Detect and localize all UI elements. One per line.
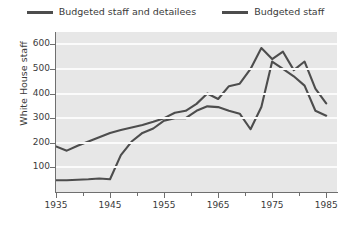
x-axis-line bbox=[55, 192, 338, 193]
y-tick-label: 200 bbox=[4, 138, 50, 147]
x-tick-label: 1935 bbox=[36, 200, 76, 210]
legend-label: Budgeted staff and detailees bbox=[59, 7, 196, 17]
x-tick-minor bbox=[191, 193, 192, 196]
y-tick bbox=[50, 94, 55, 95]
x-tick-label: 1945 bbox=[90, 200, 130, 210]
y-tick-label: 600 bbox=[4, 39, 50, 48]
chart-legend: Budgeted staff and detailees Budgeted st… bbox=[0, 4, 351, 20]
y-tick bbox=[50, 143, 55, 144]
y-tick-label: 300 bbox=[4, 113, 50, 122]
legend-item-budgeted-staff: Budgeted staff bbox=[222, 7, 324, 17]
gridline bbox=[56, 68, 337, 70]
gridline bbox=[56, 166, 337, 168]
gridline bbox=[56, 117, 337, 119]
x-tick-label: 1985 bbox=[306, 200, 346, 210]
chart-root: Budgeted staff and detailees Budgeted st… bbox=[0, 0, 351, 226]
y-tick-label: 400 bbox=[4, 89, 50, 98]
x-tick bbox=[164, 193, 165, 198]
gridline bbox=[56, 93, 337, 95]
x-tick-label: 1975 bbox=[252, 200, 292, 210]
x-tick bbox=[326, 193, 327, 198]
y-axis-line bbox=[55, 32, 56, 193]
y-tick bbox=[50, 69, 55, 70]
series-line-budgeted-staff-and-detailees bbox=[56, 48, 326, 151]
series-line-budgeted-staff bbox=[56, 62, 326, 181]
x-tick-label: 1965 bbox=[198, 200, 238, 210]
y-tick-label: 100 bbox=[4, 162, 50, 171]
x-tick bbox=[272, 193, 273, 198]
x-tick bbox=[110, 193, 111, 198]
x-tick bbox=[56, 193, 57, 198]
gridline bbox=[56, 43, 337, 45]
legend-label: Budgeted staff bbox=[254, 7, 324, 17]
y-tick bbox=[50, 167, 55, 168]
legend-swatch-icon bbox=[27, 11, 53, 14]
x-tick-minor bbox=[245, 193, 246, 196]
legend-swatch-icon bbox=[222, 11, 248, 14]
x-tick-minor bbox=[137, 193, 138, 196]
x-tick-minor bbox=[299, 193, 300, 196]
x-tick-label: 1955 bbox=[144, 200, 184, 210]
x-tick bbox=[218, 193, 219, 198]
y-tick bbox=[50, 44, 55, 45]
legend-item-budgeted-staff-and-detailees: Budgeted staff and detailees bbox=[27, 7, 196, 17]
x-tick-minor bbox=[83, 193, 84, 196]
gridline bbox=[56, 142, 337, 144]
y-tick-label: 500 bbox=[4, 64, 50, 73]
y-tick bbox=[50, 118, 55, 119]
plot-area bbox=[56, 32, 337, 192]
